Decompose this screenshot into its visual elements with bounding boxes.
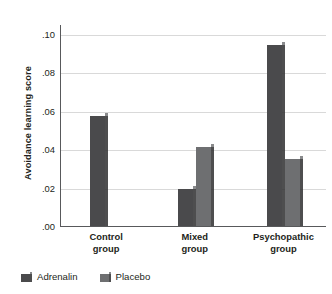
bar-placebo-psychopathic-group <box>285 156 300 226</box>
legend-swatch-body <box>100 274 109 282</box>
legend-item-placebo[interactable]: Placebo <box>100 271 151 282</box>
chart-legend: AdrenalinPlacebo <box>21 271 150 282</box>
bar-adrenalin-mixed-group <box>178 186 193 226</box>
x-label-mixed-group: Mixedgroup <box>181 231 208 254</box>
y-tick-label: .04 <box>42 144 55 155</box>
y-tick-label: .06 <box>42 106 55 117</box>
bar-body <box>285 159 300 226</box>
legend-swatch-body <box>21 274 30 282</box>
bar-side-shadow <box>211 147 214 226</box>
bar-top-highlight <box>300 156 303 159</box>
legend-swatch-top <box>30 272 32 274</box>
legend-swatch-top <box>109 272 111 274</box>
x-label-line: group <box>253 243 314 255</box>
x-label-control-group: Controlgroup <box>89 231 122 254</box>
bar-adrenalin-psychopathic-group <box>267 42 282 226</box>
x-axis-category-labels: ControlgroupMixedgroupPsychopathicgroup <box>60 231 326 265</box>
bar-body <box>196 147 211 226</box>
bar-body <box>90 116 105 226</box>
bar-body <box>267 45 282 226</box>
avoidance-learning-bar-chart: Avoidance learning score .00.02.04.06.08… <box>0 0 332 294</box>
bar-side-shadow <box>105 116 108 226</box>
legend-swatch-icon <box>100 272 109 282</box>
legend-item-adrenalin[interactable]: Adrenalin <box>21 271 78 282</box>
x-label-line: group <box>89 243 122 255</box>
y-axis-title: Avoidance learning score <box>23 43 33 203</box>
plot-area: .00.02.04.06.08.10 <box>60 25 326 227</box>
x-label-line: group <box>181 243 208 255</box>
x-label-line: Mixed <box>181 231 208 243</box>
bar-adrenalin-control-group <box>90 113 105 226</box>
y-tick-label: .08 <box>42 67 55 78</box>
bar-top-highlight <box>105 113 108 116</box>
y-tick-label: .10 <box>42 29 55 40</box>
bar-side-shadow <box>300 159 303 226</box>
x-label-line: Psychopathic <box>253 231 314 243</box>
x-label-line: Control <box>89 231 122 243</box>
x-label-psychopathic-group: Psychopathicgroup <box>253 231 314 254</box>
bar-top-highlight <box>211 144 214 147</box>
y-tick-label: .00 <box>42 221 55 232</box>
bar-placebo-mixed-group <box>196 144 211 226</box>
legend-label: Placebo <box>116 271 151 282</box>
legend-label: Adrenalin <box>37 271 78 282</box>
bars-layer <box>60 25 326 227</box>
y-tick-label: .02 <box>42 183 55 194</box>
legend-swatch-side <box>30 274 32 282</box>
bar-body <box>178 189 193 226</box>
legend-swatch-icon <box>21 272 30 282</box>
legend-swatch-side <box>109 274 111 282</box>
bar-top-highlight <box>282 42 285 45</box>
